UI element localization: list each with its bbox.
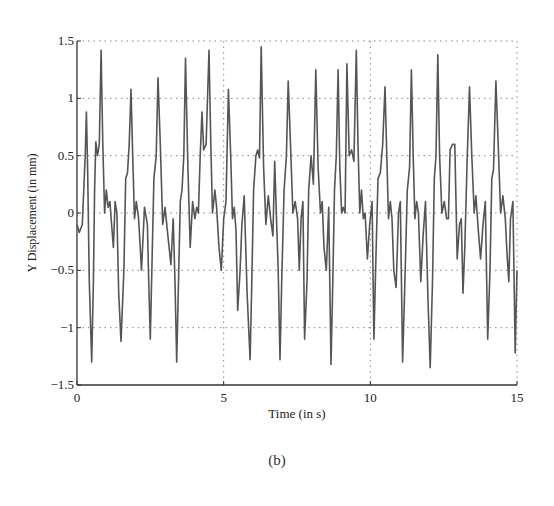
y-tick-label: −1.5 <box>50 377 74 392</box>
x-tick-label: 15 <box>511 390 524 405</box>
line-chart: 051015 −1.5−1−0.500.511.5 Time (in s) Y … <box>0 0 554 506</box>
x-tick-label: 0 <box>74 390 81 405</box>
y-tick-label: −0.5 <box>50 262 74 277</box>
y-tick-label: 0 <box>68 205 75 220</box>
data-series-line <box>77 47 517 368</box>
x-tick-label: 5 <box>220 390 227 405</box>
y-tick-label: −1 <box>60 320 74 335</box>
x-tick-label: 10 <box>364 390 377 405</box>
y-axis-tick-labels: −1.5−1−0.500.511.5 <box>50 33 74 392</box>
y-tick-label: 0.5 <box>58 148 74 163</box>
y-tick-label: 1 <box>68 90 75 105</box>
y-axis-label: Y Displacement (in mm) <box>25 153 39 272</box>
x-axis-tick-labels: 051015 <box>74 390 524 405</box>
figure-caption: (b) <box>0 452 554 469</box>
x-axis-label: Time (in s) <box>268 406 325 421</box>
y-tick-label: 1.5 <box>58 33 74 48</box>
